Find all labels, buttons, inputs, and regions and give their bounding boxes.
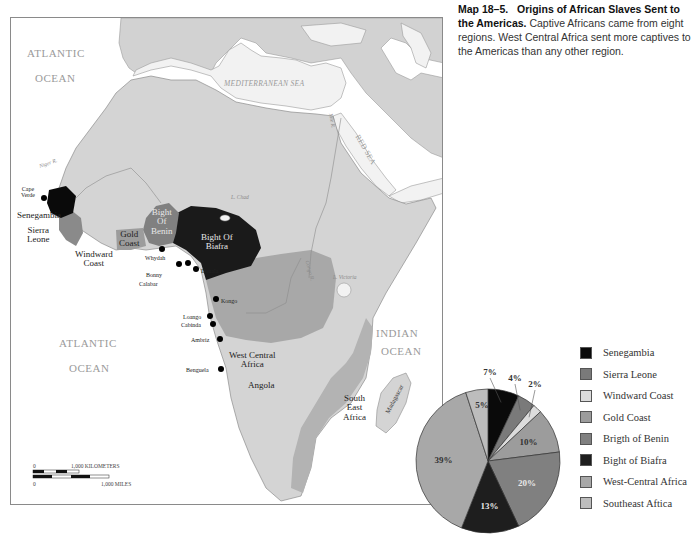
legend-item-southeast-africa: Southeast Aftica — [580, 493, 687, 515]
swatch-bight-of-biafra — [580, 454, 592, 466]
dot-ambriz — [217, 336, 223, 342]
pie-label: 2% — [528, 379, 542, 389]
label-mediterranean: MEDITERRANEAN SEA — [224, 80, 304, 88]
label-cape-verde: Cape Verde — [21, 186, 35, 198]
label-douala: Douala — [201, 268, 218, 274]
dot-whydah — [159, 246, 165, 252]
swatch-windward-coast — [580, 390, 592, 402]
figure-number: Map 18–5. — [458, 3, 508, 15]
map-frame: ATLANTIC OCEAN ATLANTIC OCEAN INDIAN OCE… — [10, 17, 443, 505]
pie-label: 7% — [483, 367, 497, 377]
pie-label: 39% — [434, 455, 452, 465]
label-indian: INDIAN — [376, 328, 418, 339]
scale-bar — [33, 470, 109, 478]
label-bight-of-biafra: Bight Of Biafra — [201, 233, 233, 252]
dot-bonny — [176, 261, 182, 267]
label-benguela: Benguela — [186, 367, 209, 373]
swatch-bight-of-benin — [580, 433, 592, 445]
dot-cape-verde — [41, 195, 47, 201]
label-atlantic-south: ATLANTIC — [59, 338, 117, 349]
scale-mi-label: 1,000 MILES — [101, 481, 131, 487]
legend: Senegambia Sierra Leone Windward Coast G… — [580, 342, 687, 514]
label-ocean-north: OCEAN — [35, 73, 75, 84]
label-lake-victoria: L. Victoria — [333, 275, 356, 281]
label-kongo: Kongo — [221, 298, 237, 304]
swatch-southeast-africa — [580, 497, 592, 509]
swatch-gold-coast — [580, 411, 592, 423]
label-bonny: Bonny — [146, 272, 162, 278]
lake-chad — [220, 215, 230, 221]
pie-svg: 7%4%2%10%20%13%39%5% — [408, 365, 568, 542]
label-west-central-africa: West Central Africa — [229, 351, 276, 370]
gulf-of-aden — [389, 178, 443, 203]
pie-label: 10% — [519, 437, 537, 447]
label-calabar: Calabar — [139, 281, 158, 287]
label-sierra-leone: Sierra Leone — [27, 226, 50, 245]
dot-calabar — [185, 260, 191, 266]
scale-mi-zero: 0 — [33, 481, 36, 487]
label-ambriz: Ambriz — [191, 337, 209, 343]
dot-loango — [207, 313, 213, 319]
label-lake-chad: L. Chad — [231, 195, 249, 201]
label-senegambia: Senegambia — [17, 211, 61, 220]
legend-item-senegambia: Senegambia — [580, 342, 687, 364]
label-southeast-africa: South East Africa — [343, 394, 366, 422]
dot-cabinda — [210, 321, 216, 327]
pie-label: 4% — [508, 373, 522, 383]
label-gold-coast: Gold Coast — [119, 230, 140, 249]
pie-label: 13% — [480, 501, 498, 511]
lake-victoria — [337, 283, 351, 297]
label-ocean-south: OCEAN — [69, 363, 109, 374]
legend-item-west-central-africa: West-Central Africa — [580, 471, 687, 493]
legend-item-windward-coast: Windward Coast — [580, 385, 687, 407]
pie-chart: 7%4%2%10%20%13%39%5% — [408, 365, 568, 542]
label-whydah: Whydah — [145, 255, 165, 261]
dot-douala — [193, 266, 199, 272]
map-caption: Map 18–5. Origins of African Slaves Sent… — [458, 2, 698, 58]
dot-benguela — [218, 366, 224, 372]
label-bight-of-benin: Bight Of Benin — [151, 208, 173, 236]
legend-item-bight-of-benin: Brigth of Benin — [580, 428, 687, 450]
label-indian-ocean: OCEAN — [381, 346, 421, 357]
pie-label: 5% — [475, 400, 489, 410]
legend-item-gold-coast: Gold Coast — [580, 407, 687, 429]
label-atlantic-north: ATLANTIC — [27, 48, 85, 59]
dot-kongo — [213, 296, 219, 302]
swatch-west-central-africa — [580, 476, 592, 488]
legend-item-sierra-leone: Sierra Leone — [580, 364, 687, 386]
legend-item-bight-of-biafra: Bight of Biafra — [580, 450, 687, 472]
label-windward-coast: Windward Coast — [75, 250, 113, 269]
swatch-sierra-leone — [580, 368, 592, 380]
scale-km-label: 1,000 KILOMETERS — [71, 463, 120, 469]
label-cabinda: Cabinda — [181, 322, 201, 328]
label-loango: Loango — [183, 314, 201, 320]
scale-km-zero: 0 — [33, 463, 36, 469]
pie-label: 20% — [518, 478, 536, 488]
label-angola: Angola — [248, 381, 275, 390]
swatch-senegambia — [580, 347, 592, 359]
